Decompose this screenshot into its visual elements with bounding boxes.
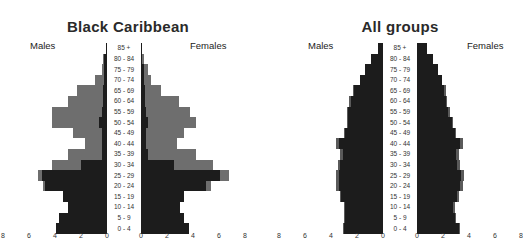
age-label: 35 - 39 bbox=[383, 149, 417, 159]
female-bar-dark bbox=[417, 170, 461, 181]
male-bar-dark bbox=[354, 85, 383, 96]
male-bar-dark bbox=[348, 107, 383, 118]
chart-title: All groups bbox=[361, 18, 438, 35]
age-label: 20 - 24 bbox=[383, 181, 417, 191]
age-label: 60 - 64 bbox=[383, 96, 417, 106]
female-bar-dark bbox=[417, 85, 444, 96]
male-bar-dark bbox=[348, 117, 383, 128]
x-tick-label: 6 bbox=[303, 232, 307, 239]
female-bar-dark bbox=[417, 138, 460, 149]
male-bar-dark bbox=[339, 181, 383, 192]
age-label: 25 - 29 bbox=[383, 171, 417, 181]
male-bar-dark bbox=[345, 202, 383, 213]
female-bar-dark bbox=[417, 43, 427, 54]
x-tick-label: 0 bbox=[381, 232, 385, 239]
female-bar-dark bbox=[417, 202, 453, 213]
age-label: 40 - 44 bbox=[383, 139, 417, 149]
age-label: 45 - 49 bbox=[383, 128, 417, 138]
age-label: 50 - 54 bbox=[383, 118, 417, 128]
x-tick-label: 6 bbox=[493, 232, 497, 239]
age-label: 0 - 4 bbox=[383, 224, 417, 234]
female-bar-dark bbox=[417, 213, 455, 224]
male-bar-dark bbox=[360, 75, 383, 86]
male-bar-dark bbox=[344, 223, 383, 234]
age-label: 65 - 69 bbox=[383, 86, 417, 96]
male-bar-dark bbox=[339, 170, 383, 181]
male-bar-dark bbox=[371, 54, 383, 65]
female-bar-dark bbox=[417, 96, 446, 107]
female-bar-dark bbox=[417, 191, 457, 202]
age-label: 5 - 9 bbox=[383, 213, 417, 223]
male-bar-dark bbox=[343, 149, 383, 160]
age-label: 10 - 14 bbox=[383, 202, 417, 212]
female-bar-dark bbox=[417, 181, 460, 192]
x-tick-label: 2 bbox=[441, 232, 445, 239]
male-bar-dark bbox=[345, 128, 383, 139]
age-label: 55 - 59 bbox=[383, 107, 417, 117]
female-bar-dark bbox=[417, 64, 438, 75]
age-label: 30 - 34 bbox=[383, 160, 417, 170]
female-bar-dark bbox=[417, 149, 456, 160]
female-bar-dark bbox=[417, 128, 455, 139]
male-bar-dark bbox=[351, 96, 384, 107]
x-tick-label: 8 bbox=[519, 232, 523, 239]
x-tick-label: 0 bbox=[415, 232, 419, 239]
age-label: 85 + bbox=[383, 43, 417, 53]
males-label: Males bbox=[308, 40, 333, 51]
females-label: Females bbox=[467, 40, 503, 51]
female-bar-dark bbox=[417, 75, 442, 86]
female-bar-dark bbox=[417, 223, 459, 234]
male-bar-dark bbox=[365, 64, 383, 75]
female-bar-dark bbox=[417, 107, 448, 118]
male-bar-dark bbox=[341, 191, 383, 202]
female-bar-dark bbox=[417, 160, 457, 171]
age-label: 15 - 19 bbox=[383, 192, 417, 202]
female-bar-dark bbox=[417, 54, 433, 65]
male-bar-dark bbox=[340, 160, 383, 171]
female-bar-dark bbox=[417, 117, 452, 128]
male-bar-dark bbox=[339, 138, 383, 149]
age-label: 75 - 79 bbox=[383, 65, 417, 75]
x-tick-label: 2 bbox=[355, 232, 359, 239]
x-tick-label: 8 bbox=[277, 232, 281, 239]
age-label: 80 - 84 bbox=[383, 54, 417, 64]
x-tick-label: 4 bbox=[329, 232, 333, 239]
x-tick-label: 4 bbox=[467, 232, 471, 239]
male-bar-dark bbox=[345, 213, 383, 224]
age-label: 70 - 74 bbox=[383, 75, 417, 85]
